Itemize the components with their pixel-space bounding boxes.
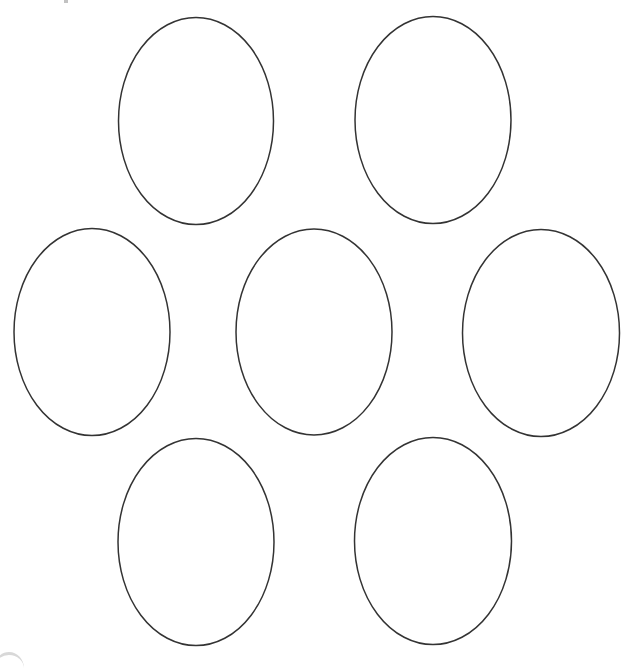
ellipse-top-left: [119, 18, 274, 225]
ellipse-bottom-right: [355, 438, 512, 645]
ellipse-middle-left: [14, 229, 170, 436]
ellipse-middle-center: [236, 229, 392, 435]
ellipse-bottom-left: [118, 439, 274, 646]
ellipse-middle-right: [463, 230, 620, 437]
ellipse-group: [14, 17, 620, 646]
ellipse-top-right: [355, 17, 511, 224]
